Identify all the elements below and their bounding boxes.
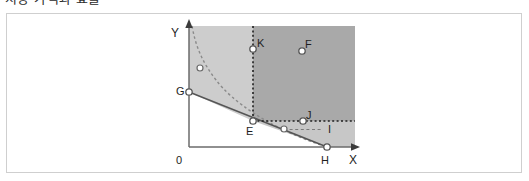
point-label-J: J <box>306 110 312 121</box>
point-label-F: F <box>305 39 312 50</box>
origin-label: 0 <box>176 155 182 166</box>
x-axis-label: X <box>349 155 357 166</box>
point-label-H: H <box>321 155 329 166</box>
point-E[interactable] <box>250 118 256 124</box>
curve-point-1[interactable] <box>197 65 203 71</box>
point-label-K: K <box>257 38 264 49</box>
y-axis-label: Y <box>171 28 179 39</box>
budget-constraint-chart <box>0 0 529 181</box>
point-K[interactable] <box>250 46 256 52</box>
screenshot-root: 시장 가격과 효율 <box>0 0 529 181</box>
point-label-I: I <box>328 124 331 135</box>
x-axis-arrow <box>351 143 360 150</box>
point-label-E: E <box>246 126 253 137</box>
pale-lower-right-region <box>253 121 355 147</box>
point-label-G: G <box>176 86 185 97</box>
light-upper-left-region <box>189 26 253 121</box>
point-H[interactable] <box>324 144 330 150</box>
line-point-1[interactable] <box>281 126 287 132</box>
y-axis-arrow <box>185 19 192 28</box>
point-G[interactable] <box>186 89 192 95</box>
dark-upper-right-region <box>253 26 355 121</box>
